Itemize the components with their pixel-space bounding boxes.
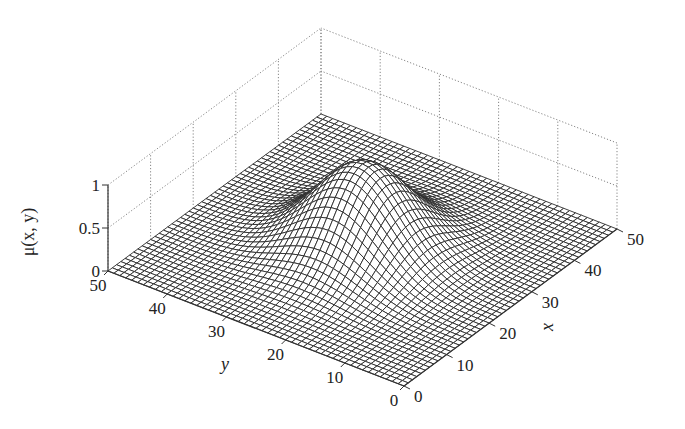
x-tick — [447, 355, 453, 358]
z-tick-label: 1 — [92, 176, 101, 195]
x-tick — [404, 386, 410, 389]
x-tick-label: 10 — [457, 356, 474, 375]
y-tick-label: 50 — [90, 276, 107, 295]
y-tick — [104, 271, 108, 275]
z-tick-label: 0.5 — [79, 219, 100, 238]
surface-mesh — [108, 114, 617, 386]
x-tick-label: 30 — [542, 293, 559, 312]
y-tick — [341, 363, 345, 367]
x-tick-label: 0 — [414, 387, 423, 406]
y-tick — [163, 294, 167, 298]
gridline — [321, 28, 617, 143]
y-tick-label: 30 — [208, 322, 225, 341]
x-tick-label: 40 — [584, 261, 601, 280]
y-axis-label: y — [219, 354, 229, 374]
x-axis-label: x — [537, 323, 557, 332]
x-tick — [489, 323, 495, 326]
y-tick — [400, 386, 404, 390]
y-tick — [282, 340, 286, 344]
surface-plot: 00.510102030405001020304050 μ(x, y) y x — [0, 0, 685, 429]
y-tick-label: 20 — [267, 345, 284, 364]
y-tick-label: 10 — [326, 368, 343, 387]
y-tick — [222, 317, 226, 321]
y-tick-label: 0 — [390, 391, 399, 410]
x-tick — [574, 260, 580, 263]
x-tick — [617, 229, 623, 232]
x-tick-label: 50 — [627, 230, 644, 249]
y-tick-label: 40 — [149, 299, 166, 318]
z-axis-label: μ(x, y) — [18, 208, 39, 257]
x-tick-label: 20 — [499, 324, 516, 343]
x-tick — [532, 292, 538, 295]
